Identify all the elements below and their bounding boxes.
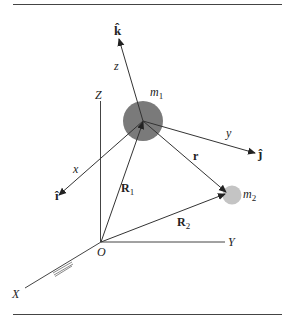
vector-R2 — [101, 194, 225, 242]
z-label: z — [113, 59, 119, 73]
R2-label: R2 — [177, 215, 190, 231]
j-hat-label: ĵ — [257, 146, 263, 161]
R1-label: R1 — [121, 181, 134, 197]
y-body-axis — [143, 121, 255, 153]
X-label: X — [11, 287, 20, 301]
Y-label: Y — [228, 235, 236, 249]
m1-label: m1 — [150, 85, 163, 101]
y-label: y — [225, 126, 232, 140]
two-body-diagram: k̂ z Z m1 y ĵ r x î R1 m2 R2 O Y X — [0, 0, 282, 323]
vector-r — [143, 121, 226, 192]
m2-label: m2 — [243, 187, 256, 203]
mass-m2 — [223, 186, 242, 205]
i-hat-label: î — [54, 188, 59, 203]
k-hat-label: k̂ — [114, 23, 122, 38]
Z-label: Z — [95, 88, 102, 102]
X-axis — [25, 242, 101, 288]
x-label: x — [72, 162, 79, 176]
O-label: O — [97, 245, 106, 259]
r-label: r — [193, 149, 199, 163]
